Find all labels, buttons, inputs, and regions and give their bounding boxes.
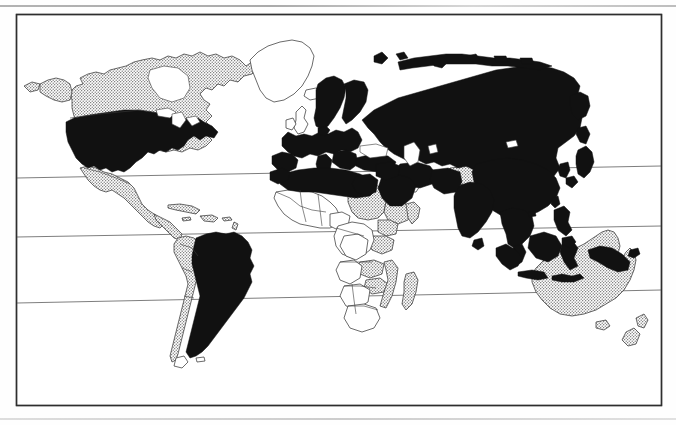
region-arctic-island-b [494, 56, 508, 62]
region-jamaica [182, 217, 191, 221]
world-map [0, 0, 676, 425]
aral-sea [428, 144, 438, 154]
region-kenya [378, 220, 398, 236]
region-arctic-island-c [520, 58, 534, 64]
region-puerto-rico [222, 217, 232, 221]
region-falklands [196, 357, 205, 362]
figure-page: World map with countries shaded in three… [0, 0, 676, 425]
region-hainan [528, 211, 536, 217]
